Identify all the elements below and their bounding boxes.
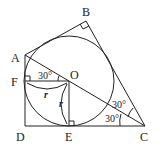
label-c: C (140, 130, 148, 144)
segment-ac (25, 55, 145, 126)
radius-label-oe: r (59, 98, 63, 109)
angle-arc-c-lower (120, 114, 121, 126)
geometry-diagram: B A F O D E C 30° 30° 30° r r (0, 0, 164, 153)
angle-arc-o (58, 76, 59, 81)
angle-label-bca: 30° (112, 99, 126, 110)
angle-arc-c-upper (128, 108, 133, 117)
right-angle-f (25, 76, 30, 81)
label-d: D (16, 130, 25, 144)
label-a: A (11, 51, 20, 65)
angle-label-foa: 30° (38, 70, 52, 81)
right-angle-e (69, 121, 74, 126)
label-e: E (65, 130, 72, 144)
angle-label-acd: 30° (105, 113, 119, 124)
label-f: F (11, 75, 18, 89)
radius-label-of: r (44, 89, 48, 100)
label-b: B (82, 5, 90, 19)
label-o: O (70, 68, 79, 82)
